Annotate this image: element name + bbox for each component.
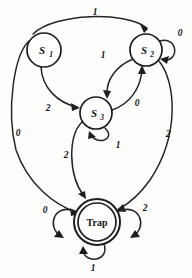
edge-label-s2-s3: 1	[101, 50, 106, 60]
state-diagram-svg: S 1 S 2 S 3 Trap 1 2 0 0 1 0 2 1 2 0	[0, 0, 192, 278]
state-node-s1[interactable]: S 1	[27, 33, 61, 67]
edge-label-s1-s3: 2	[45, 103, 51, 113]
edge-label-s3-s2: 0	[135, 98, 140, 108]
state-node-trap[interactable]: Trap	[74, 199, 120, 245]
edge-s2-to-s3	[103, 59, 133, 99]
edge-label-s2-self: 0	[178, 28, 183, 38]
edge-label-trap-self-bottom: 1	[91, 263, 96, 273]
edge-s2-to-trap	[116, 61, 172, 212]
edge-label-s3-self: 1	[116, 140, 121, 150]
edge-label-s3-trap: 2	[63, 150, 69, 160]
state-node-s3[interactable]: S 3	[80, 97, 112, 129]
edge-path-s2-trap	[119, 61, 172, 209]
state-label-s2: S	[141, 44, 147, 56]
state-sublabel-s2: 2	[149, 50, 154, 59]
arrowhead-s1-s3	[71, 103, 80, 111]
edge-trap-self-loop-bottom	[79, 244, 105, 259]
arrowhead-s3-self	[88, 131, 96, 139]
state-diagram-canvas: S 1 S 2 S 3 Trap 1 2 0 0 1 0 2 1 2 0	[0, 0, 192, 278]
arrowhead-s2-s3	[103, 90, 111, 99]
arrowhead-trap-self-bottom	[79, 246, 88, 254]
state-label-s3: S	[91, 107, 97, 119]
edge-s3-to-trap	[72, 122, 86, 199]
state-sublabel-s1: 1	[49, 50, 53, 59]
edge-label-trap-self-right: 2	[142, 203, 148, 213]
edge-path-s1-s2	[33, 17, 147, 34]
arrowhead-s2-self	[160, 56, 169, 64]
state-label-trap: Trap	[87, 217, 108, 228]
edge-path-trap-self-right	[119, 209, 141, 236]
edge-s3-self-loop	[88, 128, 109, 141]
edge-path-s3-trap	[72, 122, 84, 196]
edge-path-s2-s3	[107, 59, 133, 95]
edge-label-s2-trap: 2	[165, 129, 171, 139]
edge-trap-self-loop-right	[119, 209, 141, 238]
edge-label-s1-trap: 0	[16, 128, 21, 138]
state-node-s2[interactable]: S 2	[130, 34, 162, 66]
state-label-s1: S	[39, 44, 45, 56]
state-sublabel-s3: 3	[99, 113, 104, 122]
edge-s3-to-s2	[112, 65, 146, 110]
edge-label-s1-s2: 1	[93, 7, 98, 17]
edge-s1-to-s2	[33, 17, 148, 34]
edge-path-s1-s3	[41, 67, 77, 107]
edge-label-trap-self-left: 0	[43, 205, 48, 215]
